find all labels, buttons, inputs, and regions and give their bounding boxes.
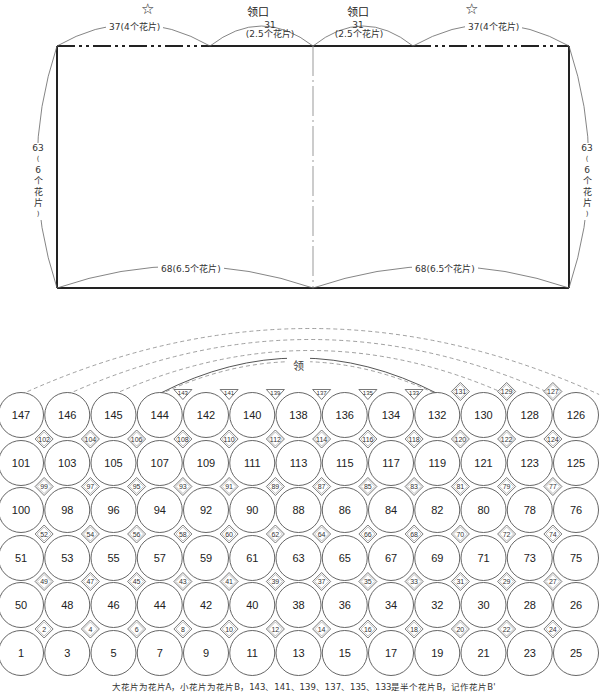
diagram-canvas: 1471461451441421401381361341321301281261… bbox=[0, 0, 607, 692]
motif-a-number: 123 bbox=[521, 457, 539, 469]
motif-b-half-number: 143 bbox=[178, 390, 189, 396]
motif-a-number: 67 bbox=[385, 552, 397, 564]
star-icon: ☆ bbox=[465, 2, 478, 17]
motif-a-number: 71 bbox=[477, 552, 489, 564]
legend-caption: 大花片为花片A，小花片为花片B，143、141、139、137、135、133是… bbox=[0, 680, 607, 692]
motif-a-number: 94 bbox=[154, 504, 166, 516]
motif-b-number: 37 bbox=[318, 578, 326, 585]
motif-a-number: 119 bbox=[428, 457, 446, 469]
label-part: 个 bbox=[580, 176, 594, 187]
motif-a-number: 23 bbox=[524, 647, 536, 659]
knitting-diagram: 1471461451441421401381361341321301281261… bbox=[0, 0, 607, 692]
motif-a-number: 25 bbox=[570, 647, 582, 659]
motif-a-number: 146 bbox=[58, 409, 76, 421]
motif-a-number: 140 bbox=[243, 409, 261, 421]
motif-a-number: 5 bbox=[110, 647, 116, 659]
motif-a-number: 105 bbox=[104, 457, 122, 469]
motif-b-half-number: 135 bbox=[363, 390, 374, 396]
motif-a-number: 88 bbox=[292, 504, 304, 516]
motif-a-number: 57 bbox=[154, 552, 166, 564]
motif-a-number: 142 bbox=[197, 409, 215, 421]
motif-a-number: 82 bbox=[431, 504, 443, 516]
motif-a-number: 109 bbox=[197, 457, 215, 469]
motif-a-number: 38 bbox=[292, 599, 304, 611]
motif-b-number: 120 bbox=[455, 436, 467, 443]
motif-b-number: 39 bbox=[271, 578, 279, 585]
motif-b-number: 112 bbox=[270, 436, 281, 443]
motif-a-number: 78 bbox=[524, 504, 536, 516]
motif-a-number: 75 bbox=[570, 552, 582, 564]
motif-b-number: 114 bbox=[316, 436, 327, 443]
motif-b-number: 31 bbox=[456, 578, 464, 585]
motif-a-number: 73 bbox=[524, 552, 536, 564]
motif-a-number: 42 bbox=[200, 599, 212, 611]
motif-b-number: 97 bbox=[86, 483, 94, 490]
motif-a-number: 51 bbox=[15, 552, 27, 564]
motif-a-number: 21 bbox=[477, 647, 489, 659]
motif-a-number: 84 bbox=[385, 504, 397, 516]
motif-a-number: 13 bbox=[292, 647, 304, 659]
motif-a-number: 36 bbox=[339, 599, 351, 611]
motif-b-number: 60 bbox=[225, 531, 233, 538]
motif-b-half-number: 133 bbox=[409, 390, 420, 396]
right-height-measure: 63 ( 6 个 花 片 ) bbox=[580, 143, 594, 220]
motif-a-number: 59 bbox=[200, 552, 212, 564]
motif-a-number: 11 bbox=[247, 647, 258, 659]
motif-a-number: 63 bbox=[292, 552, 304, 564]
right-neck-motifs: (2.5个花片) bbox=[325, 29, 393, 39]
label-part: 63 bbox=[31, 143, 45, 154]
motif-a-number: 15 bbox=[339, 647, 351, 659]
motif-b-number: 33 bbox=[410, 578, 418, 585]
motif-b-number: 83 bbox=[410, 483, 418, 490]
left-width-measure: 68(6.5个花片) bbox=[158, 264, 224, 274]
motif-b-number: 58 bbox=[179, 531, 187, 538]
motif-b-number: 2 bbox=[42, 626, 46, 633]
motif-b-number: 108 bbox=[177, 436, 189, 443]
motif-a-number: 17 bbox=[385, 647, 397, 659]
motif-a-number: 32 bbox=[431, 599, 443, 611]
motif-a-number: 121 bbox=[474, 457, 492, 469]
motif-b-number: 66 bbox=[364, 531, 372, 538]
motif-a-number: 69 bbox=[431, 552, 443, 564]
motif-a-number: 76 bbox=[570, 504, 582, 516]
motif-a-number: 144 bbox=[151, 409, 169, 421]
collar-label: 领 bbox=[287, 357, 310, 373]
right-shoulder-measure: 37(4个花片) bbox=[465, 22, 522, 32]
motif-b-number: 122 bbox=[501, 436, 513, 443]
motif-a-number: 103 bbox=[58, 457, 76, 469]
motif-b-number: 110 bbox=[224, 436, 235, 443]
motif-a-number: 115 bbox=[336, 457, 354, 469]
motif-b-half-number: 141 bbox=[224, 390, 235, 396]
motif-a-number: 61 bbox=[246, 552, 258, 564]
motif-a-number: 107 bbox=[151, 457, 169, 469]
motif-b-number: 93 bbox=[179, 483, 187, 490]
motif-a-number: 136 bbox=[336, 409, 354, 421]
label-part: 6 bbox=[31, 165, 45, 176]
motif-a-number: 101 bbox=[12, 457, 30, 469]
motif-b-number: 124 bbox=[547, 436, 559, 443]
motif-a-number: 28 bbox=[524, 599, 536, 611]
motif-b-number: 41 bbox=[225, 578, 233, 585]
motif-a-number: 92 bbox=[200, 504, 212, 516]
motif-b-number: 68 bbox=[410, 531, 418, 538]
motif-b-number: 49 bbox=[40, 578, 48, 585]
motif-a-number: 117 bbox=[382, 457, 400, 469]
motif-a-number: 30 bbox=[477, 599, 489, 611]
motif-b-number: 62 bbox=[271, 531, 279, 538]
motif-a-number: 34 bbox=[385, 599, 397, 611]
motif-b-number: 102 bbox=[38, 436, 50, 443]
motif-a-number: 90 bbox=[246, 504, 258, 516]
motif-b-number: 64 bbox=[318, 531, 326, 538]
label-part: ) bbox=[580, 209, 594, 220]
motif-b-number: 81 bbox=[456, 483, 464, 490]
motif-b-number: 6 bbox=[135, 626, 139, 633]
label-part: ( bbox=[580, 154, 594, 165]
label-part: 片 bbox=[31, 198, 45, 209]
motif-b-number: 8 bbox=[181, 626, 185, 633]
motif-a-number: 100 bbox=[12, 504, 30, 516]
motif-a-number: 50 bbox=[15, 599, 27, 611]
motif-b-number: 116 bbox=[362, 436, 373, 443]
motif-b-number: 77 bbox=[549, 483, 557, 490]
motif-b-half-number: 139 bbox=[270, 390, 281, 396]
motif-a-number: 86 bbox=[339, 504, 351, 516]
